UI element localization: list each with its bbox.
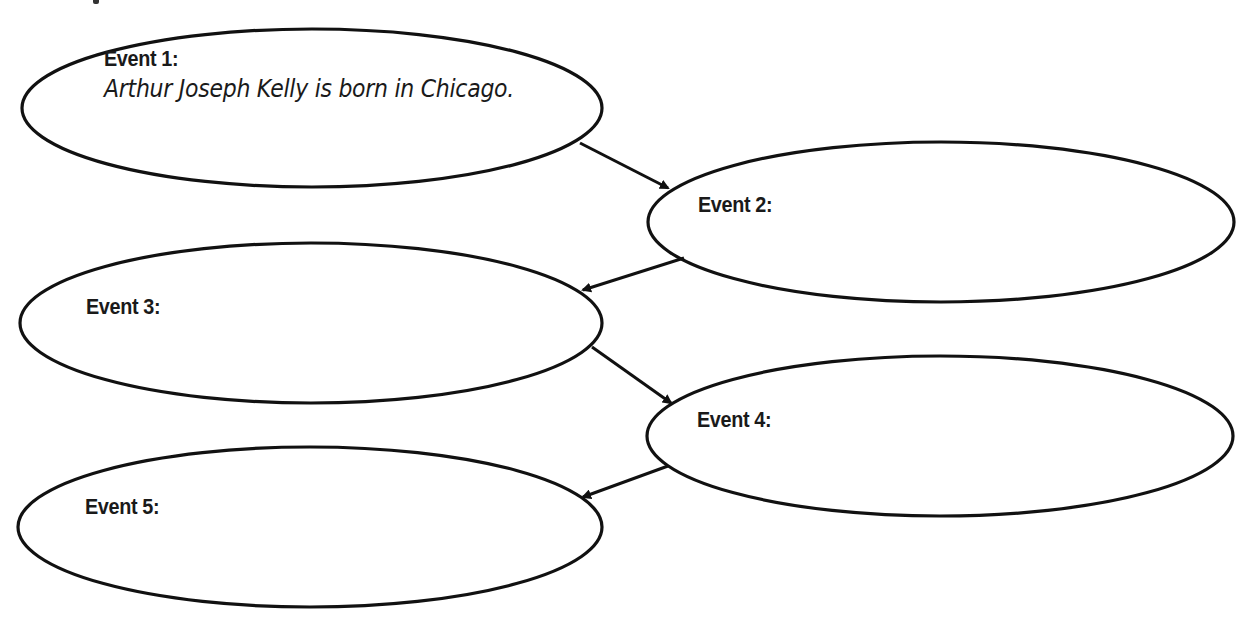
arrow-1-to-2: [580, 143, 668, 188]
event-4-shape: [647, 356, 1233, 516]
event-4-ellipse: [647, 356, 1233, 516]
event-2-shape: [648, 142, 1234, 302]
event-5-ellipse: [18, 447, 602, 607]
event-3-ellipse: [20, 243, 602, 403]
event-1-answer-text[interactable]: Arthur Joseph Kelly is born in Chicago.: [104, 76, 514, 101]
event-2-ellipse: [648, 142, 1234, 302]
arrow-3-to-4: [592, 347, 671, 403]
event-3-shape: [20, 243, 602, 403]
event-3-label: Event 3:: [86, 296, 160, 318]
event-2-label: Event 2:: [698, 194, 772, 216]
event-1-label: Event 1:: [104, 48, 178, 70]
arrow-2-to-3: [583, 258, 684, 290]
arrow-4-to-5: [583, 466, 668, 497]
event-5-label: Event 5:: [85, 496, 159, 518]
event-4-label: Event 4:: [697, 409, 771, 431]
event-5-shape: [18, 447, 602, 607]
